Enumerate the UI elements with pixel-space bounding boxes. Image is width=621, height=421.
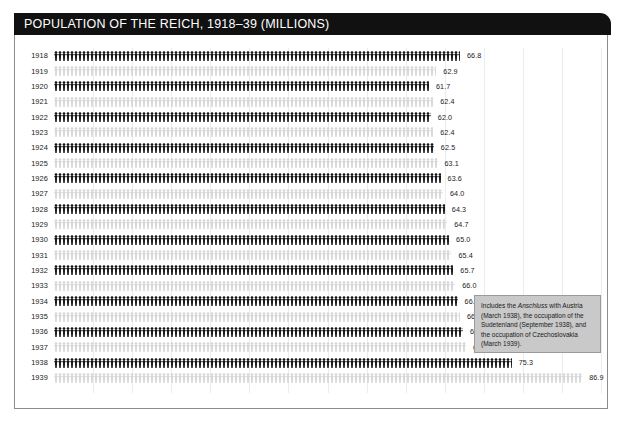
row-year-label: 1928 (20, 205, 54, 214)
person-icon-row (54, 127, 433, 137)
chart-row: 192462.5 (20, 140, 601, 155)
row-year-label: 1924 (20, 143, 54, 152)
bar-track: 62.4 (54, 127, 601, 138)
pictogram-bar (54, 219, 447, 229)
pictogram-bar (54, 127, 433, 137)
pictogram-bar (54, 373, 582, 383)
annotation-note-text: Includes the Anschluss with Austria (Mar… (481, 301, 594, 349)
page-title: POPULATION OF THE REICH, 1918–39 (MILLIO… (14, 17, 329, 31)
row-value-label: 65.0 (456, 235, 470, 244)
pictogram-bar (54, 189, 443, 199)
row-value-label: 63.1 (445, 159, 459, 168)
row-year-label: 1926 (20, 174, 54, 183)
person-icon-row (54, 250, 451, 260)
chart-title-bar: POPULATION OF THE REICH, 1918–39 (MILLIO… (14, 13, 611, 35)
person-icon-row (54, 219, 447, 229)
chart-row: 192563.1 (20, 155, 601, 170)
bar-track: 61.7 (54, 81, 601, 92)
person-icon-row (54, 97, 433, 107)
person-icon-row (54, 66, 436, 76)
row-value-label: 65.7 (460, 266, 474, 275)
row-value-label: 62.9 (443, 67, 457, 76)
bar-track: 63.6 (54, 173, 601, 184)
chart-row: 192262.0 (20, 109, 601, 124)
bar-track: 62.0 (54, 112, 601, 123)
row-year-label: 1919 (20, 67, 54, 76)
chart-row: 191866.8 (20, 48, 601, 63)
row-year-label: 1927 (20, 189, 54, 198)
row-value-label: 62.4 (440, 97, 454, 106)
row-year-label: 1920 (20, 82, 54, 91)
row-value-label: 62.4 (440, 128, 454, 137)
population-chart-figure: POPULATION OF THE REICH, 1918–39 (MILLIO… (0, 0, 621, 421)
chart-row: 193986.9 (20, 370, 601, 385)
row-year-label: 1918 (20, 51, 54, 60)
chart-row: 192362.4 (20, 125, 601, 140)
row-year-label: 1932 (20, 266, 54, 275)
row-year-label: 1933 (20, 281, 54, 290)
person-icon-row (54, 281, 455, 291)
row-year-label: 1923 (20, 128, 54, 137)
bar-track: 66.0 (54, 280, 601, 291)
row-value-label: 61.7 (436, 82, 450, 91)
row-value-label: 62.5 (441, 143, 455, 152)
chart-row: 193366.0 (20, 278, 601, 293)
note-italic-term: Anschluss (518, 302, 548, 309)
chart-row: 193165.4 (20, 247, 601, 262)
row-value-label: 66.0 (462, 281, 476, 290)
row-year-label: 1935 (20, 312, 54, 321)
pictogram-bar (54, 81, 429, 91)
row-value-label: 64.3 (452, 205, 466, 214)
bar-track: 64.0 (54, 188, 601, 199)
bar-track: 75.3 (54, 357, 601, 368)
row-year-label: 1931 (20, 251, 54, 260)
person-icon-row (54, 204, 445, 214)
person-icon-row (54, 312, 460, 322)
chart-row: 192162.4 (20, 94, 601, 109)
bar-track: 62.5 (54, 142, 601, 153)
person-icon-row (54, 373, 582, 383)
chart-row: 193875.3 (20, 355, 601, 370)
row-value-label: 66.8 (467, 51, 481, 60)
row-year-label: 1921 (20, 97, 54, 106)
chart-row: 192663.6 (20, 171, 601, 186)
row-year-label: 1936 (20, 327, 54, 336)
person-icon-row (54, 235, 449, 245)
pictogram-bar (54, 97, 433, 107)
pictogram-bar (54, 143, 434, 153)
bar-track: 65.0 (54, 234, 601, 245)
row-year-label: 1925 (20, 159, 54, 168)
row-value-label: 64.7 (454, 220, 468, 229)
row-value-label: 62.0 (438, 113, 452, 122)
row-value-label: 63.6 (448, 174, 462, 183)
pictogram-bar (54, 281, 455, 291)
pictogram-bar (54, 250, 451, 260)
bar-track: 62.9 (54, 66, 601, 77)
row-value-label: 65.4 (458, 251, 472, 260)
row-year-label: 1938 (20, 358, 54, 367)
pictogram-bar (54, 158, 438, 168)
bar-track: 65.7 (54, 265, 601, 276)
row-year-label: 1922 (20, 113, 54, 122)
person-icon-row (54, 143, 434, 153)
person-icon-row (54, 51, 460, 61)
pictogram-bar (54, 327, 463, 337)
pictogram-bar (54, 235, 449, 245)
pictogram-bar (54, 173, 441, 183)
person-icon-row (54, 189, 443, 199)
chart-row: 192061.7 (20, 79, 601, 94)
row-year-label: 1934 (20, 297, 54, 306)
row-year-label: 1929 (20, 220, 54, 229)
chart-row: 191962.9 (20, 63, 601, 78)
bar-track: 63.1 (54, 158, 601, 169)
person-icon-row (54, 342, 466, 352)
pictogram-bar (54, 358, 512, 368)
bar-track: 66.8 (54, 50, 601, 61)
person-icon-row (54, 296, 458, 306)
pictogram-bar (54, 204, 445, 214)
row-value-label: 86.9 (589, 373, 603, 382)
pictogram-bar (54, 66, 436, 76)
bar-track: 64.7 (54, 219, 601, 230)
chart-row: 192864.3 (20, 201, 601, 216)
pictogram-bar (54, 296, 458, 306)
